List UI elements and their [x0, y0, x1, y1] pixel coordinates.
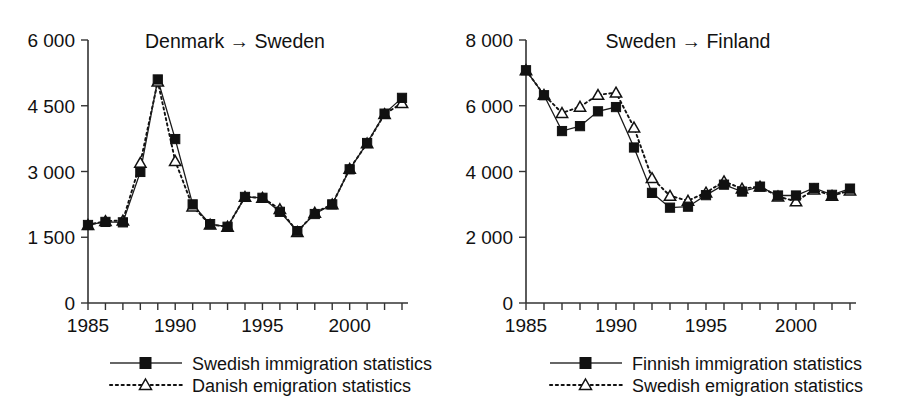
- data-point-square: [791, 191, 800, 200]
- data-point-square: [575, 122, 584, 131]
- data-point-square: [206, 220, 215, 229]
- data-point-square: [258, 193, 267, 202]
- x-tick-label: 1990: [595, 315, 637, 336]
- data-point-triangle: [574, 101, 585, 111]
- data-point-square: [136, 167, 145, 176]
- data-point-square: [345, 165, 354, 174]
- chart-panel-sweden-finland: Sweden → Finland 8 000 6 000 4 000 2 000…: [450, 0, 900, 419]
- data-point-square: [827, 190, 836, 199]
- x-tick-label: 1990: [154, 315, 196, 336]
- x-tick-label: 1995: [241, 315, 283, 336]
- chart-panel-denmark-sweden: Denmark → Sweden 6 000 4 500 3 000 1 500…: [0, 0, 450, 419]
- series-line-1: [526, 70, 850, 201]
- x-tick-label: 1995: [685, 315, 727, 336]
- figure-root: Denmark → Sweden 6 000 4 500 3 000 1 500…: [0, 0, 900, 419]
- chart-svg-left: Denmark → Sweden 6 000 4 500 3 000 1 500…: [0, 0, 450, 419]
- y-tick-label: 0: [64, 293, 75, 314]
- data-point-square: [83, 220, 92, 229]
- data-point-triangle: [135, 157, 146, 167]
- data-point-square: [809, 183, 818, 192]
- data-point-square: [557, 126, 566, 135]
- data-point-square: [275, 207, 284, 216]
- data-point-square: [118, 218, 127, 227]
- x-tick-label: 1985: [67, 315, 109, 336]
- series-line-0: [88, 79, 402, 231]
- data-point-square: [188, 200, 197, 209]
- data-point-square: [153, 75, 162, 84]
- legend: Swedish immigration statistics Danish em…: [110, 354, 432, 396]
- data-point-square: [701, 191, 710, 200]
- data-point-square: [683, 202, 692, 211]
- legend-label: Danish emigration statistics: [192, 376, 411, 396]
- data-point-square: [363, 138, 372, 147]
- chart-title: Denmark → Sweden: [145, 30, 325, 52]
- data-point-square: [101, 217, 110, 226]
- series-line-1: [88, 82, 402, 232]
- legend-entry-series-1: Swedish emigration statistics: [550, 376, 863, 396]
- y-tick-label: 4 500: [27, 96, 75, 117]
- legend: Finnish immigration statistics Swedish e…: [550, 354, 863, 396]
- data-point-square: [593, 107, 602, 116]
- legend-label: Swedish emigration statistics: [632, 376, 863, 396]
- x-axis-ticks: [526, 303, 850, 310]
- y-tick-label: 8 000: [465, 30, 513, 51]
- data-point-square: [845, 184, 854, 193]
- x-tick-label: 2000: [775, 315, 817, 336]
- data-point-triangle: [170, 156, 181, 166]
- y-tick-label: 2 000: [465, 227, 513, 248]
- data-point-square: [310, 209, 319, 218]
- chart-title: Sweden → Finland: [606, 30, 771, 52]
- legend-entry-series-0: Finnish immigration statistics: [550, 354, 862, 374]
- data-point-square: [397, 93, 406, 102]
- data-point-square: [611, 102, 620, 111]
- legend-marker-filled-square: [580, 358, 591, 369]
- data-point-square: [755, 182, 764, 191]
- legend-entry-series-0: Swedish immigration statistics: [110, 354, 432, 374]
- data-point-square: [773, 191, 782, 200]
- legend-marker-filled-square: [140, 358, 151, 369]
- data-point-square: [380, 109, 389, 118]
- data-point-triangle: [610, 87, 621, 97]
- x-tick-label: 1985: [505, 315, 547, 336]
- data-point-square: [629, 143, 638, 152]
- y-axis-ticks: [519, 40, 526, 303]
- legend-entry-series-1: Danish emigration statistics: [110, 376, 411, 396]
- data-point-triangle: [592, 90, 603, 100]
- data-point-square: [521, 66, 530, 75]
- data-point-triangle: [628, 122, 639, 132]
- data-point-square: [171, 134, 180, 143]
- x-tick-label: 2000: [329, 315, 371, 336]
- y-tick-label: 0: [502, 293, 513, 314]
- y-tick-label: 4 000: [465, 162, 513, 183]
- plot-area: [520, 65, 855, 212]
- y-tick-label: 1 500: [27, 227, 75, 248]
- x-axis-ticks: [88, 303, 402, 310]
- legend-label: Swedish immigration statistics: [192, 354, 432, 374]
- data-point-square: [647, 188, 656, 197]
- data-point-square: [240, 192, 249, 201]
- series-line-0: [526, 70, 850, 207]
- data-point-square: [539, 91, 548, 100]
- y-tick-label: 3 000: [27, 162, 75, 183]
- y-axis-ticks: [81, 40, 88, 303]
- y-tick-label: 6 000: [27, 30, 75, 51]
- x-axis-tick-labels: 1985199019952000: [505, 315, 817, 336]
- legend-label: Finnish immigration statistics: [632, 354, 862, 374]
- plot-area: [82, 75, 407, 237]
- data-point-square: [665, 203, 674, 212]
- data-point-square: [719, 180, 728, 189]
- data-point-square: [223, 222, 232, 231]
- data-point-square: [328, 200, 337, 209]
- data-point-square: [293, 227, 302, 236]
- y-tick-label: 6 000: [465, 96, 513, 117]
- chart-svg-right: Sweden → Finland 8 000 6 000 4 000 2 000…: [450, 0, 900, 419]
- data-point-triangle: [646, 173, 657, 183]
- x-axis-tick-labels: 1985199019952000: [67, 315, 371, 336]
- data-point-square: [737, 187, 746, 196]
